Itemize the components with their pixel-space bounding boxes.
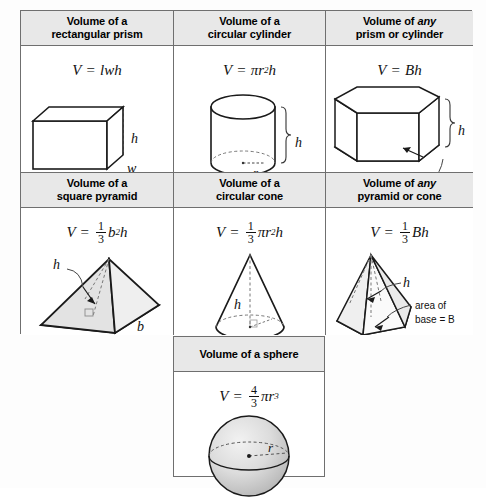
rectangular-prism-drawing: h l w [27, 85, 167, 173]
header-line1: Volume of a [67, 15, 127, 27]
fraction-one-third: 1 3 [246, 220, 256, 245]
cell-header-rectangular-prism: Volume of a rectangular prism [21, 11, 173, 46]
oblique-prism-drawing: h area of base = B [327, 85, 472, 173]
header-emphasis-any: any [417, 15, 436, 27]
header-line1: Volume of a [219, 177, 279, 189]
fraction-denominator: 3 [96, 232, 106, 245]
label-h: h [53, 257, 60, 272]
fraction-one-third: 1 3 [400, 220, 410, 245]
formula-square-pyramid: V = 1 3 b2h [66, 217, 127, 247]
formula-lhs: V [377, 62, 386, 79]
cell-any-prism-or-cylinder: Volume of any prism or cylinder V = Bh [326, 11, 473, 173]
header-line2: prism or cylinder [356, 28, 444, 40]
formula-equals: = [385, 224, 393, 241]
label-h: h [131, 131, 138, 146]
formula-h: h [276, 224, 284, 241]
cell-square-pyramid: Volume of a square pyramid V = 1 3 b2h [21, 173, 174, 335]
formula-any-pyramid-or-cone: V = 1 3 Bh [370, 217, 428, 247]
formula-exp: 3 [274, 391, 279, 401]
cell-body-circular-cone: V = 1 3 πr2h [174, 208, 325, 335]
figure-any-pyramid-or-cone: h area of base = B [326, 247, 473, 335]
header-line2: circular cylinder [208, 28, 291, 40]
formula-lhs: V [370, 224, 379, 241]
figure-any-prism-or-cylinder: h area of base = B [326, 85, 473, 173]
cell-any-pyramid-or-cone: Volume of any pyramid or cone V = 1 3 Bh [326, 173, 473, 335]
header-line1: Volume of a [219, 15, 279, 27]
formula-pi: π [261, 388, 269, 405]
fraction-numerator: 1 [400, 220, 410, 232]
header-line1-prefix: Volume of [363, 177, 414, 189]
header-line2: rectangular prism [51, 28, 142, 40]
formula-lhs: V [66, 224, 75, 241]
header-line2: square pyramid [57, 190, 138, 202]
cell-circular-cone: Volume of a circular cone V = 1 3 πr2h [174, 173, 326, 335]
header-line1-prefix: Volume of [363, 15, 414, 27]
label-base-eq-B: base = B [415, 314, 455, 325]
formula-any-prism-or-cylinder: V = Bh [377, 55, 421, 85]
formula-equals: = [237, 62, 245, 79]
formula-sphere: V = 4 3 πr3 [219, 381, 279, 411]
formula-lhs: V [219, 388, 228, 405]
formula-b: b [108, 224, 116, 241]
label-h: h [295, 135, 302, 150]
formula-lhs: V [216, 224, 225, 241]
cell-body-any-pyramid-or-cone: V = 1 3 Bh [326, 208, 473, 335]
fraction-denominator: 3 [400, 232, 410, 245]
cell-body-square-pyramid: V = 1 3 b2h [21, 208, 173, 335]
cell-header-sphere: Volume of a sphere [174, 337, 324, 372]
label-area-of: area of [415, 300, 446, 311]
cell-body-circular-cylinder: V = πr2h r [174, 46, 325, 173]
fraction-numerator: 4 [249, 384, 259, 396]
formula-rhs: lwh [100, 62, 122, 79]
figure-circular-cylinder: r h [174, 85, 325, 173]
header-line2: pyramid or cone [357, 190, 441, 202]
figure-square-pyramid: h b b [21, 247, 173, 335]
label-h: h [403, 275, 410, 290]
formula-circular-cone: V = 1 3 πr2h [216, 217, 283, 247]
cell-body-sphere: V = 4 3 πr3 [174, 372, 324, 501]
label-b-right: b [137, 319, 144, 334]
figure-circular-cone: h r [174, 247, 325, 335]
cell-header-circular-cylinder: Volume of a circular cylinder [174, 11, 325, 46]
label-h: h [458, 123, 465, 138]
cell-rectangular-prism: Volume of a rectangular prism V = lwh [21, 11, 174, 173]
cell-body-any-prism-or-cylinder: V = Bh [326, 46, 473, 173]
cell-body-rectangular-prism: V = lwh h [21, 46, 173, 173]
fraction-four-thirds: 4 3 [249, 384, 259, 409]
header-line1: Volume of a [67, 177, 127, 189]
formula-rhs: Bh [405, 62, 422, 79]
formula-equals: = [87, 62, 95, 79]
cell-sphere: Volume of a sphere V = 4 3 πr3 [173, 336, 325, 477]
cell-circular-cylinder: Volume of a circular cylinder V = πr2h [174, 11, 326, 173]
fraction-one-third: 1 3 [96, 220, 106, 245]
figure-sphere: r [174, 411, 324, 501]
header-line1: Volume of a sphere [200, 348, 299, 360]
formula-rhs: Bh [412, 224, 429, 241]
cell-header-any-prism-or-cylinder: Volume of any prism or cylinder [326, 11, 473, 46]
formula-h: h [269, 62, 277, 79]
formula-equals: = [233, 388, 241, 405]
figure-rectangular-prism: h l w [21, 85, 173, 173]
fraction-denominator: 3 [249, 396, 259, 409]
cell-header-any-pyramid-or-cone: Volume of any pyramid or cone [326, 173, 473, 208]
formula-rectangular-prism: V = lwh [72, 55, 121, 85]
volume-formulas-table: Volume of a rectangular prism V = lwh [20, 10, 472, 334]
label-w: w [127, 161, 137, 173]
hexagonal-pyramid-drawing: h area of base = B [327, 247, 472, 335]
header-emphasis-any: any [417, 177, 436, 189]
formula-h: h [120, 224, 128, 241]
formula-equals: = [392, 62, 400, 79]
square-pyramid-drawing: h b b [23, 247, 171, 335]
cylinder-drawing: r h [185, 85, 315, 173]
cell-header-square-pyramid: Volume of a square pyramid [21, 173, 173, 208]
fraction-numerator: 1 [96, 220, 106, 232]
formula-pi: π [258, 224, 266, 241]
formula-equals: = [81, 224, 89, 241]
formula-lhs: V [72, 62, 81, 79]
formula-circular-cylinder: V = πr2h [223, 55, 276, 85]
label-h: h [234, 297, 241, 312]
header-line2: circular cone [216, 190, 283, 202]
fraction-denominator: 3 [246, 232, 256, 245]
cone-drawing: h r [190, 247, 310, 335]
